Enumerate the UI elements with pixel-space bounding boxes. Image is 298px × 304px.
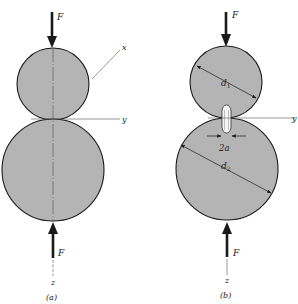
arrowhead-down-icon	[47, 36, 57, 48]
x-axis-label-a: x	[122, 43, 127, 52]
y-axis-label-a: y	[121, 115, 127, 124]
force-label-bottom-a: F	[57, 248, 65, 258]
force-label-top-b: F	[231, 10, 239, 20]
x-axis-a	[92, 50, 120, 79]
z-axis-label-b: z	[224, 276, 230, 285]
arrowhead-down-icon	[221, 34, 231, 47]
panel-a: F y x F z (a)	[2, 12, 127, 302]
force-label-bottom-b: F	[232, 248, 240, 258]
caption-b: (b)	[220, 291, 231, 300]
panel-b: F d1 y 2a d2 F z (b)	[176, 10, 297, 300]
caption-a: (a)	[46, 293, 57, 302]
z-axis-label-a: z	[50, 278, 56, 287]
contact-stress-diagram: F y x F z (a) F d1	[0, 0, 298, 304]
arrowhead-up-icon	[222, 222, 232, 234]
width-2a-label: 2a	[218, 143, 229, 153]
contact-zone	[222, 105, 231, 133]
force-label-top-a: F	[56, 12, 64, 22]
arrowhead-up-icon	[48, 222, 58, 234]
y-axis-label-b: y	[291, 114, 297, 123]
